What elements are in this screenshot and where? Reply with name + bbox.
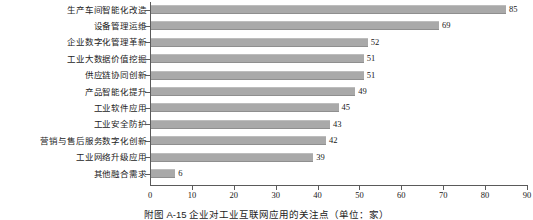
bar-group: 39	[150, 150, 325, 165]
bar-value-label: 43	[333, 120, 342, 129]
bar-group: 51	[150, 68, 375, 83]
category-label: 工业软件应用	[1, 103, 147, 113]
bar-group: 6	[150, 166, 182, 181]
bar-row: 其他融合需求6	[0, 166, 533, 181]
bar-group: 49	[150, 84, 367, 99]
x-axis-tick-label: 30	[271, 190, 280, 200]
bar-row: 产品智能化提升49	[0, 84, 533, 99]
bar-rows: 生产车间智能化改造85设备管理运维69企业数字化管理革新52工业大数据价值挖掘5…	[0, 0, 533, 186]
bar-row: 生产车间智能化改造85	[0, 2, 533, 17]
bar	[150, 153, 313, 162]
category-label: 工业安全防护	[1, 119, 147, 129]
bar	[150, 120, 330, 129]
bar-value-label: 51	[367, 71, 376, 80]
bar-row: 工业软件应用45	[0, 100, 533, 115]
x-axis-tick-label: 90	[523, 190, 532, 200]
bar-value-label: 51	[367, 54, 376, 63]
bar-group: 45	[150, 100, 350, 115]
bar-value-label: 49	[358, 87, 367, 96]
figure-container: 生产车间智能化改造85设备管理运维69企业数字化管理革新52工业大数据价值挖掘5…	[0, 0, 533, 220]
bar-row: 企业数字化管理革新52	[0, 35, 533, 50]
category-label: 产品智能化提升	[1, 87, 147, 97]
x-axis-tick-label: 80	[481, 190, 490, 200]
bar	[150, 38, 368, 47]
bar-group: 52	[150, 35, 379, 50]
category-label: 工业网络升级应用	[1, 152, 147, 162]
x-axis-tick-label: 60	[397, 190, 406, 200]
category-label: 生产车间智能化改造	[1, 5, 147, 15]
bar-value-label: 69	[442, 21, 451, 30]
bar	[150, 87, 355, 96]
bar	[150, 136, 326, 145]
bar-value-label: 52	[371, 38, 380, 47]
category-label: 供应链协同创新	[1, 70, 147, 80]
figure-caption: 附图 A-15 企业对工业互联网应用的关注点（单位：家）	[0, 207, 533, 220]
bar-value-label: 6	[178, 169, 182, 178]
x-axis-tick-label: 10	[188, 190, 197, 200]
bar-group: 43	[150, 117, 342, 132]
x-axis-tick-label: 0	[148, 190, 152, 200]
bar	[150, 54, 364, 63]
category-label: 工业大数据价值挖掘	[1, 54, 147, 64]
bar-row: 供应链协同创新51	[0, 68, 533, 83]
bar-group: 85	[150, 2, 518, 17]
bar-group: 69	[150, 18, 451, 33]
bar-value-label: 39	[316, 153, 325, 162]
category-label: 设备管理运维	[1, 21, 147, 31]
x-axis-tick-label: 50	[355, 190, 364, 200]
category-label: 营销与售后服务数字化创新	[1, 136, 147, 146]
bar-value-label: 45	[342, 103, 351, 112]
bar-row: 工业大数据价值挖掘51	[0, 51, 533, 66]
x-axis-tick-label: 40	[313, 190, 322, 200]
bar-group: 42	[150, 133, 337, 148]
bar-value-label: 85	[509, 5, 518, 14]
bar	[150, 21, 439, 30]
bar-group: 51	[150, 51, 375, 66]
bar	[150, 169, 175, 178]
x-axis-line	[150, 185, 528, 186]
y-axis-line	[150, 2, 151, 186]
x-axis-tick-label: 70	[439, 190, 448, 200]
bar	[150, 5, 506, 14]
bar-row: 工业安全防护43	[0, 117, 533, 132]
category-label: 企业数字化管理革新	[1, 37, 147, 47]
x-axis-tick-label: 20	[230, 190, 239, 200]
bar	[150, 103, 339, 112]
bar	[150, 71, 364, 80]
bar-value-label: 42	[329, 136, 338, 145]
bar-row: 营销与售后服务数字化创新42	[0, 133, 533, 148]
bar-row: 设备管理运维69	[0, 18, 533, 33]
category-label: 其他融合需求	[1, 169, 147, 179]
bar-row: 工业网络升级应用39	[0, 150, 533, 165]
